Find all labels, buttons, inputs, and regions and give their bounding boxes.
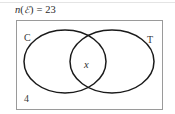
- universal-set-rectangle: [17, 21, 163, 110]
- set-t-ellipse: [70, 30, 154, 93]
- set-c-label: C: [24, 33, 31, 43]
- set-t-label: T: [147, 35, 153, 45]
- set-c-ellipse: [24, 30, 106, 93]
- venn-diagram-canvas: C T x 4: [0, 0, 175, 114]
- intersection-region-label: x: [84, 60, 89, 70]
- outside-region-label: 4: [24, 94, 29, 104]
- venn-diagram-figure: n(ℰ) = 23 C T x 4: [0, 0, 175, 114]
